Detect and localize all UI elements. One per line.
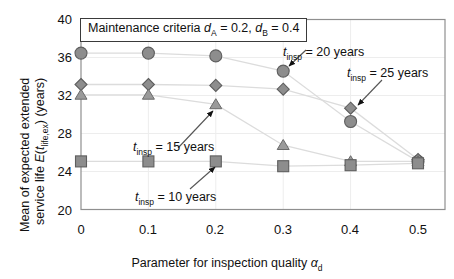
arrow-t10 bbox=[190, 167, 215, 189]
x-tick-0.3: 0.3 bbox=[263, 222, 303, 237]
annotation-tinsp-15: tinsp = 15 years bbox=[133, 140, 214, 157]
annotation-text: = 20 years bbox=[302, 45, 364, 59]
arrow-t25 bbox=[358, 80, 382, 105]
x-tick-0.2: 0.2 bbox=[195, 222, 235, 237]
annotation-tinsp-25: tinsp = 25 years bbox=[347, 66, 428, 83]
t-subscript: life,ex bbox=[40, 124, 50, 146]
criteria-prefix: Maintenance criteria bbox=[88, 21, 204, 35]
x-tick-0: 0 bbox=[61, 222, 101, 237]
series-markers-triangle bbox=[75, 89, 424, 166]
x-tick-0.4: 0.4 bbox=[330, 222, 370, 237]
y-tick-36: 36 bbox=[42, 50, 72, 65]
x-axis-label: Parameter for inspection quality αd bbox=[0, 256, 454, 273]
annotation-tinsp-10: tinsp = 10 years bbox=[135, 190, 216, 207]
E-symbol: E bbox=[33, 154, 47, 162]
y-tick-40: 40 bbox=[42, 12, 72, 27]
annotation-text: = 25 years bbox=[366, 66, 428, 80]
y-axis-label-suffix: ) (years) bbox=[33, 78, 47, 125]
criteria-value-b: = 0.4 bbox=[268, 21, 300, 35]
y-axis-label-prefix: service life bbox=[33, 162, 47, 225]
series-line-square bbox=[81, 161, 418, 166]
criteria-value-a: = 0.2, bbox=[217, 21, 256, 35]
t-subscript: insp bbox=[286, 52, 302, 62]
plot-frame bbox=[81, 20, 445, 210]
y-axis-label-line1: Mean of expected extended bbox=[18, 78, 33, 232]
y-axis-label-line2: service life E(tlife,ex) (years) bbox=[33, 78, 50, 225]
maintenance-criteria-box: Maintenance criteria dA = 0.2, dB = 0.4 bbox=[80, 18, 307, 42]
x-tick-0.1: 0.1 bbox=[128, 222, 168, 237]
t-symbol: t bbox=[33, 146, 47, 149]
alpha-subscript: d bbox=[318, 263, 323, 273]
series-line-triangle bbox=[81, 95, 418, 161]
t-subscript: insp bbox=[350, 73, 366, 83]
x-tick-0.5: 0.5 bbox=[398, 222, 438, 237]
annotation-tinsp-20: tinsp = 20 years bbox=[283, 45, 364, 62]
x-axis-label-prefix: Parameter for inspection quality bbox=[131, 256, 310, 270]
annotation-text: = 15 years bbox=[152, 140, 214, 154]
t-subscript: insp bbox=[138, 197, 154, 207]
annotation-text: = 10 years bbox=[154, 190, 216, 204]
t-subscript: insp bbox=[136, 147, 152, 157]
criteria-dA-symbol: d bbox=[204, 21, 211, 35]
alpha-symbol: α bbox=[311, 256, 318, 270]
chart-figure: Maintenance criteria dA = 0.2, dB = 0.4 … bbox=[0, 0, 454, 279]
